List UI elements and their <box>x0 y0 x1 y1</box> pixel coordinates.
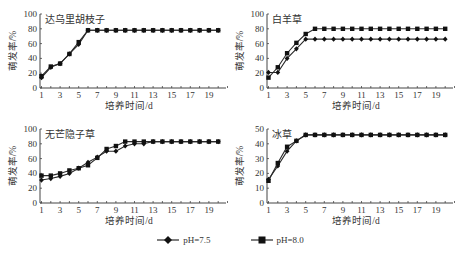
square-marker-icon <box>443 27 447 31</box>
square-marker-icon <box>350 27 354 31</box>
square-marker-icon <box>266 179 270 183</box>
x-tick-label: 9 <box>114 205 119 215</box>
square-marker-icon <box>331 133 335 137</box>
y-tick-label: 100 <box>24 9 38 19</box>
square-marker-icon <box>331 27 335 31</box>
x-tick-label: 1 <box>266 90 271 100</box>
y-tick-label: 0 <box>260 83 265 93</box>
square-marker-icon <box>369 27 373 31</box>
square-marker-icon <box>67 52 71 56</box>
diamond-marker-icon <box>123 143 128 148</box>
x-tick-label: 15 <box>167 205 177 215</box>
square-marker-icon <box>322 27 326 31</box>
x-axis-title: 培养时间/d <box>105 215 153 226</box>
x-tick-label: 17 <box>186 205 196 215</box>
square-marker-icon <box>179 28 183 32</box>
square-marker-icon <box>276 65 280 69</box>
square-marker-icon <box>58 171 62 175</box>
square-marker-icon <box>313 133 317 137</box>
diamond-marker-icon <box>359 37 364 42</box>
square-marker-icon <box>142 139 146 143</box>
square-marker-icon <box>406 133 410 137</box>
diamond-marker-icon <box>387 37 392 42</box>
legend: pH=7.5 pH=8.0 <box>0 232 461 248</box>
y-axis-title: 萌发率/% <box>234 31 245 72</box>
square-marker-icon <box>58 61 62 65</box>
y-tick-label: 0 <box>260 198 265 208</box>
square-marker-icon <box>170 139 174 143</box>
legend-item-ph80: pH=8.0 <box>251 232 304 248</box>
diamond-marker-icon <box>368 37 373 42</box>
y-tick-label: 80 <box>28 139 38 149</box>
diamond-marker-icon <box>322 37 327 42</box>
square-marker-icon <box>285 145 289 149</box>
diamond-marker-icon <box>424 37 429 42</box>
square-marker-icon <box>434 133 438 137</box>
square-marker-icon <box>49 64 53 68</box>
square-marker-icon <box>95 156 99 160</box>
diamond-marker-icon <box>313 37 318 42</box>
panel-title: 达乌里胡枝子 <box>45 13 105 25</box>
x-tick-label: 19 <box>204 205 214 215</box>
y-tick-label: 40 <box>255 53 265 63</box>
x-tick-label: 5 <box>76 90 81 100</box>
square-marker-icon <box>304 32 308 36</box>
y-axis-title: 萌发率/% <box>7 31 18 72</box>
square-marker-icon <box>77 40 81 44</box>
square-marker-icon <box>216 139 220 143</box>
y-tick-label: 0 <box>33 83 38 93</box>
square-marker-icon <box>132 28 136 32</box>
square-marker-icon <box>397 133 401 137</box>
chart-panel-cleistogenes: 020406080100135791113151719培养时间/d萌发率/%无芒… <box>7 124 228 226</box>
x-tick-label: 7 <box>95 205 100 215</box>
y-tick-label: 100 <box>251 9 265 19</box>
square-marker-icon <box>207 28 211 32</box>
square-marker-icon <box>67 168 71 172</box>
diamond-marker-icon <box>396 37 401 42</box>
square-marker-icon <box>49 173 53 177</box>
y-tick-label: 80 <box>255 24 265 34</box>
panel-title: 冰草 <box>272 128 292 140</box>
legend-label-ph80: pH=8.0 <box>277 235 304 245</box>
y-tick-label: 40 <box>28 168 38 178</box>
x-tick-label: 11 <box>130 90 139 100</box>
x-tick-label: 15 <box>394 90 404 100</box>
diamond-marker-icon <box>415 37 420 42</box>
square-marker-icon <box>160 28 164 32</box>
panel-title: 无芒隐子草 <box>45 128 95 140</box>
square-marker-icon <box>86 163 90 167</box>
legend-label-ph75: pH=7.5 <box>183 235 210 245</box>
x-tick-label: 15 <box>167 90 177 100</box>
y-tick-label: 80 <box>28 24 38 34</box>
square-marker-icon <box>170 28 174 32</box>
x-tick-label: 11 <box>357 205 366 215</box>
square-marker-icon <box>104 147 108 151</box>
square-marker-icon <box>114 144 118 148</box>
square-marker-icon <box>424 133 428 137</box>
diamond-marker-icon <box>114 149 119 154</box>
square-marker-icon <box>266 75 270 79</box>
diamond-marker-icon <box>443 37 448 42</box>
square-marker-icon <box>151 28 155 32</box>
square-marker-icon <box>123 28 127 32</box>
x-tick-label: 11 <box>130 205 139 215</box>
square-marker-icon <box>132 139 136 143</box>
square-marker-icon <box>216 28 220 32</box>
square-marker-icon <box>378 27 382 31</box>
x-tick-label: 3 <box>285 90 290 100</box>
square-marker-icon <box>322 133 326 137</box>
diamond-marker-icon <box>406 37 411 42</box>
square-marker-icon <box>359 133 363 137</box>
diamond-marker-icon <box>378 37 383 42</box>
square-marker-icon <box>123 139 127 143</box>
x-tick-label: 13 <box>376 90 386 100</box>
square-marker-icon <box>285 51 289 55</box>
square-marker-icon <box>341 133 345 137</box>
y-axis-title: 萌发率/% <box>7 146 18 187</box>
diamond-marker-icon <box>350 37 355 42</box>
square-marker-icon <box>77 166 81 170</box>
y-tick-label: 0 <box>33 198 38 208</box>
square-marker-icon <box>378 133 382 137</box>
y-tick-label: 20 <box>28 183 38 193</box>
square-marker-icon <box>251 235 273 245</box>
